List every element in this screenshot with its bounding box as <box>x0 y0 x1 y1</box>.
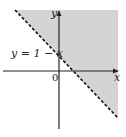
x-axis-label: x <box>114 71 121 84</box>
y-axis-label: y <box>50 7 58 20</box>
inequality-graph: y x 0 y = 1 − x <box>0 0 126 137</box>
origin-label: 0 <box>52 72 58 83</box>
line-equation-label: y = 1 − x <box>10 47 64 60</box>
